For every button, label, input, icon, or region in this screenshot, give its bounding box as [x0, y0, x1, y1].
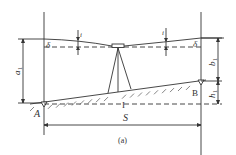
tripod-leg-right — [118, 48, 131, 89]
h1-label: h 1 — [207, 90, 218, 98]
point-a-label: A — [33, 108, 41, 119]
i-right-label: i — [162, 29, 164, 37]
ground-hatching — [30, 86, 190, 111]
point-a-marker — [41, 102, 47, 107]
tripod-leg-left — [108, 48, 118, 93]
figure-caption: (a) — [118, 136, 127, 145]
level-line-label: I — [122, 100, 125, 110]
svg-text:1: 1 — [212, 90, 218, 93]
delta-left-label: δ — [46, 40, 51, 50]
distance-label: S — [123, 112, 128, 123]
point-b-label: B — [192, 88, 198, 98]
delta-right-label: δ — [193, 39, 198, 49]
a1-label: a 1 — [12, 67, 23, 75]
level-instrument — [112, 44, 124, 48]
i-left-label: i — [80, 31, 82, 39]
svg-text:1: 1 — [17, 67, 23, 70]
svg-text:1: 1 — [212, 58, 218, 61]
leveling-diagram: δ δ i i a 1 b 1 h 1 A B I S (a) — [0, 0, 236, 155]
right-sight-line — [124, 38, 224, 46]
left-sight-line — [18, 39, 112, 46]
b1-label: b 1 — [207, 58, 218, 66]
